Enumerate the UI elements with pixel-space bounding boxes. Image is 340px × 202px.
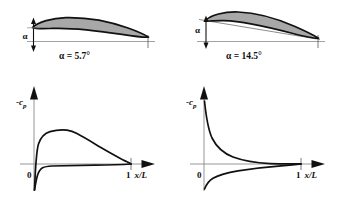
x-origin-label-left: 0 — [27, 170, 32, 180]
x-axis-left — [20, 160, 155, 168]
panel-airfoil-low-angle: α α = 5.7° — [23, 18, 156, 62]
svg-text:-cp: -cp — [16, 97, 27, 110]
x-tick-one-label-right: 1 — [296, 170, 301, 180]
curve-upper-surface-right — [205, 101, 302, 164]
y-axis-label-right: -cp — [186, 97, 197, 110]
svg-text:1x/L: 1x/L — [126, 170, 148, 180]
curve-lower-surface-right — [205, 164, 302, 189]
svg-text:-cp: -cp — [186, 97, 197, 110]
panel-pressure-plot-low-angle: -cp 0 1x/L — [16, 86, 155, 191]
panel-pressure-plot-high-angle: -cp 0 1x/L — [186, 86, 325, 191]
x-axis-name-right: x/L — [304, 170, 318, 180]
panel-airfoil-high-angle: α α = 14.5° — [195, 12, 325, 61]
x-origin-label-right: 0 — [197, 170, 202, 180]
airfoil-shape — [33, 18, 149, 38]
x-tick-one-label-left: 1 — [126, 170, 131, 180]
svg-text:1x/L: 1x/L — [296, 170, 318, 180]
x-axis-label-right: 1x/L — [296, 170, 318, 180]
x-axis-name-left: x/L — [134, 170, 148, 180]
curve-upper-surface-left — [35, 130, 132, 190]
y-axis-label-left: -cp — [16, 97, 27, 110]
airfoil-pressure-figure: α α = 5.7° α α = 14.5° — [0, 0, 340, 202]
y-label-sub-left: p — [22, 102, 27, 110]
x-axis-right — [190, 160, 325, 168]
alpha-height-marker — [27, 18, 40, 53]
angle-label-right: α = 14.5° — [226, 51, 262, 61]
alpha-marker-label-left: α — [23, 31, 28, 41]
x-axis-label-left: 1x/L — [126, 170, 148, 180]
airfoil-shape — [206, 12, 319, 38]
alpha-height-marker — [204, 16, 209, 50]
alpha-marker-label-right: α — [195, 25, 200, 35]
y-label-sub-right: p — [192, 102, 197, 110]
angle-label-left: α = 5.7° — [59, 51, 90, 61]
curve-lower-surface-left — [35, 164, 132, 190]
